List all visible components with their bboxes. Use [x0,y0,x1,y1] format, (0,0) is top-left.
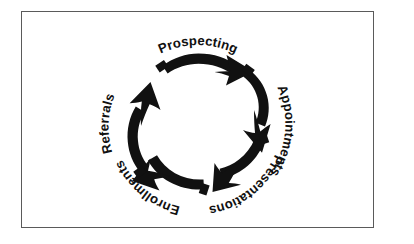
stage-label-referrals: Referrals [97,91,118,155]
referrals-arrow-shaft [128,107,148,172]
cycle-diagram: Prospecting Appointments Presentations E… [0,0,414,244]
stage-label-prospecting: Prospecting [156,33,240,56]
prospecting-arrow-shaft [163,54,238,75]
presentations-arrowhead [213,162,242,192]
diagram-canvas: Prospecting Appointments Presentations E… [0,0,414,244]
cycle-arrow-prospecting [155,54,253,86]
enrollments-arrow-shaft [148,155,204,189]
stage-label-referrals-text: Referrals [97,91,118,155]
stage-label-prospecting-text: Prospecting [156,33,240,56]
